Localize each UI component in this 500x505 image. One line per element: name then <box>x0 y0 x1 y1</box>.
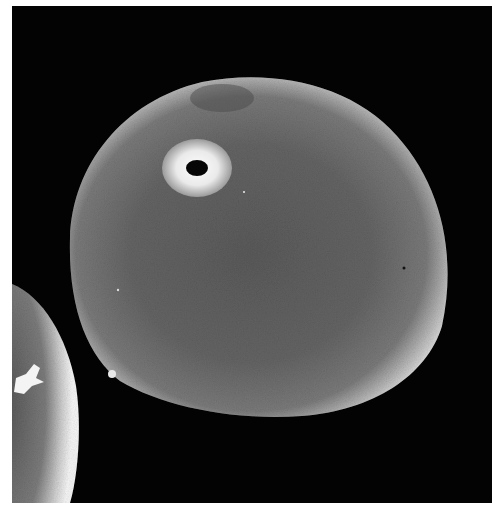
micrograph-frame <box>12 6 492 503</box>
micrograph-image <box>12 6 492 503</box>
pore-hole <box>186 160 208 176</box>
pore <box>162 139 232 197</box>
main-pollen-grain <box>70 77 448 417</box>
partial-pollen-grain <box>12 284 79 503</box>
